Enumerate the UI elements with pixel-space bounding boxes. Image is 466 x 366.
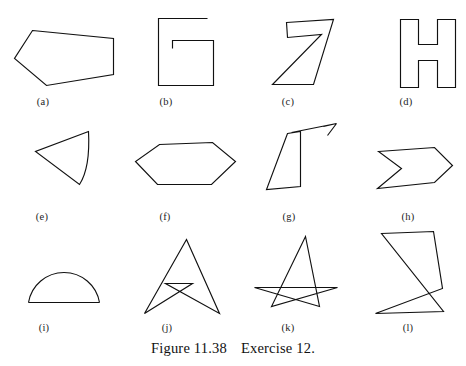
shape-group-j <box>145 240 220 314</box>
shape-label-c: (c) <box>268 96 308 107</box>
shape-a-convex-pentagon <box>15 31 114 86</box>
shape-group-e <box>36 132 89 185</box>
shape-label-h: (h) <box>388 211 428 222</box>
shape-label-g: (g) <box>269 211 309 222</box>
shape-group-k <box>255 237 338 307</box>
shape-label-e: (e) <box>22 211 62 222</box>
shape-group-l <box>376 232 444 314</box>
shape-l-zigzag-crossed-polygon <box>376 232 444 314</box>
shape-label-a: (a) <box>23 96 63 107</box>
shape-group-a <box>15 31 114 86</box>
shape-group-f <box>136 143 236 185</box>
shape-label-f: (f) <box>145 211 185 222</box>
shape-i-semicircle-dome <box>29 272 100 302</box>
shapes-canvas <box>0 0 466 366</box>
shape-label-j: (j) <box>147 322 187 333</box>
shape-d-letter-h-shape <box>401 20 456 88</box>
shape-group-g <box>267 124 337 190</box>
shape-g-quadrilateral-with-ray <box>267 124 337 190</box>
shape-group-d <box>401 20 456 88</box>
shape-label-b: (b) <box>146 96 186 107</box>
shape-b-spiral-g-shape <box>159 19 214 86</box>
shape-e-curved-side-triangle <box>36 132 89 185</box>
figure-caption: Figure 11.38Exercise 12. <box>0 340 466 357</box>
shape-group-i <box>29 272 100 302</box>
figure-caption-text: Exercise 12. <box>241 340 315 356</box>
shape-label-k: (k) <box>268 322 308 333</box>
figure-container: (a) (b) (c) (d) (e) (f) (g) (h) (i) (j) … <box>0 0 466 366</box>
shape-label-l: (l) <box>388 322 428 333</box>
shape-h-chevron-arrow-shape <box>378 148 453 189</box>
shape-j-self-intersecting-arrowhead <box>145 240 220 314</box>
shape-c-digit-seven-shape <box>273 20 334 85</box>
shape-group-c <box>273 20 334 85</box>
shape-group-b <box>159 19 214 86</box>
shape-label-d: (d) <box>386 96 426 107</box>
figure-caption-number: Figure 11.38 <box>151 340 227 356</box>
shape-f-hexagon <box>136 143 236 185</box>
shape-group-h <box>378 148 453 189</box>
shape-label-i: (i) <box>24 322 64 333</box>
shape-k-crossed-triangle-shape <box>255 237 338 307</box>
